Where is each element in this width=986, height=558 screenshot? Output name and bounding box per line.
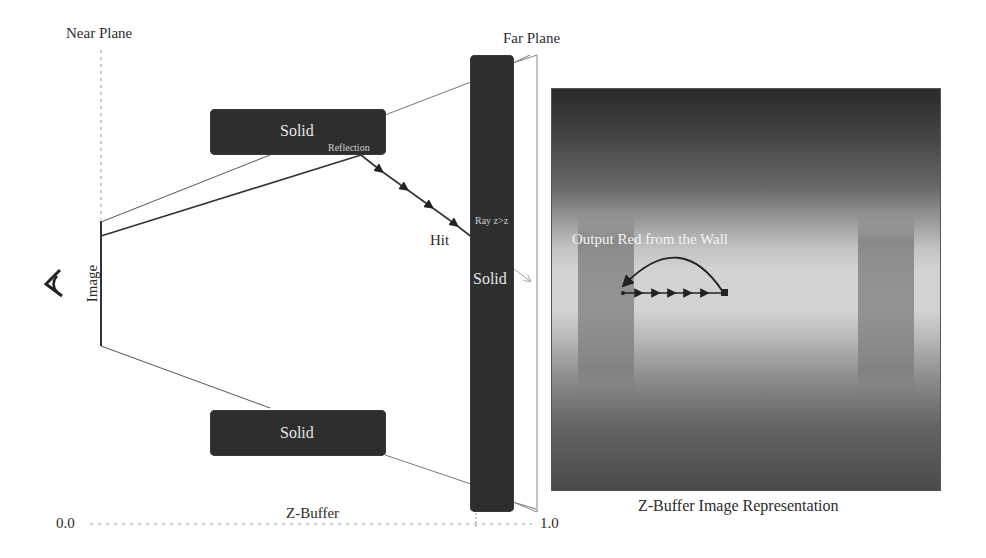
axis-start-label: 0.0 xyxy=(56,515,75,532)
hit-label: Hit xyxy=(430,232,449,249)
z-buffer-label: Z-Buffer xyxy=(286,505,339,522)
march-arrows xyxy=(551,88,941,491)
z-buffer-image-caption: Z-Buffer Image Representation xyxy=(638,497,839,515)
far-plane-outline xyxy=(513,55,537,512)
solid-top: Solid Reflection xyxy=(210,109,386,155)
far-plane-label: Far Plane xyxy=(503,30,560,47)
solid-bottom: Solid xyxy=(210,410,386,456)
z-buffer-image: Output Red from the Wall xyxy=(551,88,941,491)
reflected-ray xyxy=(361,155,478,242)
solid-wall-label: Solid xyxy=(473,270,507,288)
axis-end-label: 1.0 xyxy=(540,515,559,532)
image-plane-label: Image xyxy=(84,254,101,314)
solid-wall: Ray z>z Solid xyxy=(470,55,514,512)
near-plane-label: Near Plane xyxy=(66,25,132,42)
solid-top-label: Solid xyxy=(280,122,314,140)
reflection-label: Reflection xyxy=(328,142,370,153)
solid-bottom-label: Solid xyxy=(280,424,314,442)
ray-depth-label: Ray z>z xyxy=(475,215,508,226)
eye-icon xyxy=(40,266,66,300)
camera-ray xyxy=(101,155,361,236)
